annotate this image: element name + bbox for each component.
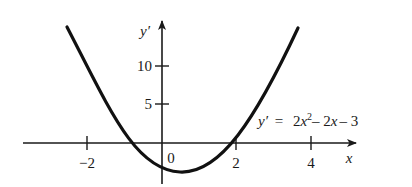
equation-var2: x [330,113,338,129]
y-tick-label-10: 10 [137,58,152,74]
chart: −2 2 4 0 10 5 y′ x y′ = 2x2– 2x– 3 [0,0,412,187]
equation-minus2: – 3 [339,113,359,129]
x-tick-label-4: 4 [307,155,315,171]
x-axis-label: x [345,150,353,166]
y-axis-label: y′ [138,23,151,39]
equation-equals: = [275,113,283,129]
origin-label: 0 [167,150,175,166]
equation-coef: 2 [293,113,301,129]
equation-minus1: – 2 [311,113,331,129]
x-tick-label-2: 2 [232,155,240,171]
equation-lhs: y′ [256,113,269,129]
x-tick-label-neg2: −2 [79,155,95,171]
parabola-curve [67,27,298,172]
y-tick-label-5: 5 [145,96,153,112]
equation-label: y′ = 2x2– 2x– 3 [256,111,358,129]
